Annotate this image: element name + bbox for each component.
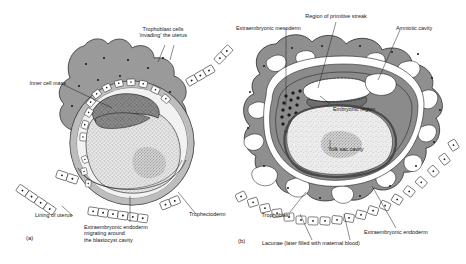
label-amniotic-cavity: Amniotic cavity — [396, 25, 460, 31]
label-lining-of-uterus: Lining of uterus — [35, 212, 105, 218]
label-region-of-primitive-streak: Region of primitive streak — [282, 13, 390, 19]
label-embryonic-region: Embryonic region — [333, 106, 391, 112]
label-trophoblast-invading: Trophoblast cells ‘invading’ the uterus — [120, 26, 206, 39]
panel-a-drawing — [16, 39, 234, 223]
amniotic-cavity-right-b — [365, 74, 396, 96]
label-yolk-sac-cavity: Yolk sac cavity — [328, 146, 376, 152]
label-trophoblast: Trophoblast — [236, 212, 290, 218]
panel-id-b: (b) — [238, 238, 245, 244]
panel-b-drawing — [235, 22, 460, 240]
label-trophectoderm: Trophectoderm — [189, 211, 239, 217]
figure-canvas: Trophoblast cells ‘invading’ the uterus … — [0, 0, 466, 264]
panel-id-a: (a) — [26, 235, 33, 241]
label-inner-cell-mass: Inner cell mass — [4, 80, 66, 86]
label-extraembryonic-endoderm-b: Extraembryonic endoderm — [364, 229, 458, 235]
implantation-figure — [0, 0, 466, 264]
label-extraembryonic-endoderm-migrating: Extraembryonic endoderm migrating around… — [84, 224, 194, 243]
label-lacunae: Lacunae (later filled with maternal bloo… — [262, 240, 412, 246]
label-extraembryonic-mesoderm: Extraembryonic mesoderm — [236, 25, 332, 31]
